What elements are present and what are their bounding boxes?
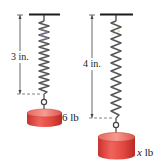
spring-diagram	[0, 0, 162, 166]
right-hook-link	[113, 122, 118, 127]
left-weight	[27, 109, 62, 127]
right-weight	[98, 133, 135, 160]
right-spring-assembly	[89, 15, 135, 160]
left-hook-link	[41, 99, 46, 104]
right-weight-unit: lb	[142, 146, 153, 158]
right-stretch-label: 4 in.	[83, 58, 101, 70]
left-stretch-label: 3 in.	[11, 51, 29, 63]
right-spring-coil	[111, 21, 121, 118]
right-weight-label: x lb	[137, 147, 153, 158]
left-weight-label: 6 lb	[62, 112, 79, 123]
left-spring-assembly	[17, 15, 62, 128]
